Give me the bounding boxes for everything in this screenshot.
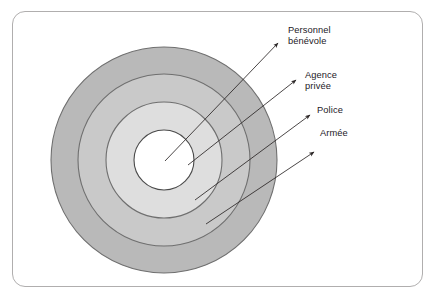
concentric-ring-diagram: [0, 0, 441, 301]
label-police: Police: [317, 105, 343, 116]
label-personnel-benevole-line2: bénévole: [288, 36, 327, 46]
label-personnel-benevole: Personnelbénévole: [288, 25, 331, 48]
label-agence-privee: Agenceprivée: [305, 70, 337, 93]
label-personnel-benevole-line1: Personnel: [288, 25, 331, 35]
label-police-line1: Police: [317, 105, 343, 115]
figure-canvas: Personnelbénévole Agenceprivée Police Ar…: [0, 0, 441, 301]
label-agence-privee-line1: Agence: [305, 70, 337, 80]
ring-personnel-benevole-innermost: [134, 130, 194, 190]
label-agence-privee-line2: privée: [305, 81, 331, 91]
label-armee: Armée: [320, 128, 348, 139]
label-armee-line1: Armée: [320, 128, 348, 138]
